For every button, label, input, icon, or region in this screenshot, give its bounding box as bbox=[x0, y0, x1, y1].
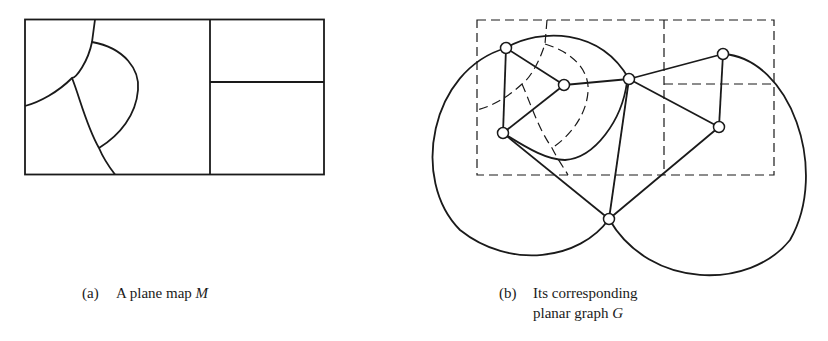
edge-a-f bbox=[503, 48, 506, 133]
caption-a-tag: (a) bbox=[82, 283, 116, 303]
edge-a-b bbox=[506, 48, 564, 85]
vertex-c bbox=[624, 74, 635, 85]
planar-graph-g bbox=[433, 36, 806, 276]
edge-d-e bbox=[719, 54, 723, 127]
caption-b-variable: G bbox=[612, 305, 623, 321]
vertex-b bbox=[559, 80, 570, 91]
vertex-d bbox=[718, 49, 729, 60]
edge-c-g bbox=[609, 79, 629, 219]
map-region-border-1 bbox=[25, 20, 95, 107]
plane-map-m bbox=[25, 20, 324, 175]
caption-a: (a)A plane map M bbox=[82, 283, 208, 303]
edge-d-g-outer-loop bbox=[609, 54, 806, 275]
edge-b-f bbox=[503, 85, 564, 133]
edge-a-g-outer-loop bbox=[433, 48, 609, 255]
edge-b-c bbox=[564, 79, 629, 85]
edge-c-d bbox=[629, 54, 723, 79]
vertex-e bbox=[714, 122, 725, 133]
edge-c-e bbox=[629, 79, 719, 127]
map-region-border-3 bbox=[72, 78, 115, 175]
map-outer-boundary bbox=[25, 20, 324, 175]
caption-b-line2: planar graph bbox=[533, 305, 612, 321]
caption-b-line1: Its corresponding bbox=[533, 285, 638, 301]
map-region-border-2 bbox=[92, 42, 138, 148]
caption-b-tag: (b) bbox=[499, 283, 533, 303]
vertex-f bbox=[498, 128, 509, 139]
vertex-a bbox=[501, 43, 512, 54]
vertex-g bbox=[604, 214, 615, 225]
caption-a-text: A plane map bbox=[116, 285, 196, 301]
caption-b: (b)Its corresponding planar graph G bbox=[499, 283, 638, 323]
edge-a-c-arc bbox=[506, 36, 629, 79]
caption-a-variable: M bbox=[196, 285, 209, 301]
overlay-region-border-3 bbox=[522, 84, 568, 175]
overlay-region-border-1 bbox=[477, 20, 547, 110]
